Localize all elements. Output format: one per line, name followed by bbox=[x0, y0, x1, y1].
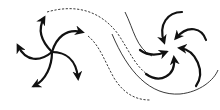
solid-streamline-outer bbox=[112, 34, 218, 94]
source-arrow-icon bbox=[52, 52, 78, 78]
dashed-streamline-upper bbox=[47, 9, 150, 76]
sink-arrow-icon bbox=[162, 12, 182, 42]
source-arrow-icon bbox=[41, 18, 52, 52]
source-arrow-icon bbox=[52, 31, 82, 52]
solid-streamline-inner bbox=[125, 12, 152, 56]
sink-arrow-icon bbox=[176, 29, 206, 40]
sink-arrow-icon bbox=[140, 50, 166, 55]
vortex-sink bbox=[140, 12, 206, 86]
sink-arrow-icon bbox=[146, 58, 174, 78]
sink-arrow-icon bbox=[180, 48, 200, 86]
vortex-diagram bbox=[0, 0, 220, 110]
vortex-source bbox=[18, 18, 82, 86]
